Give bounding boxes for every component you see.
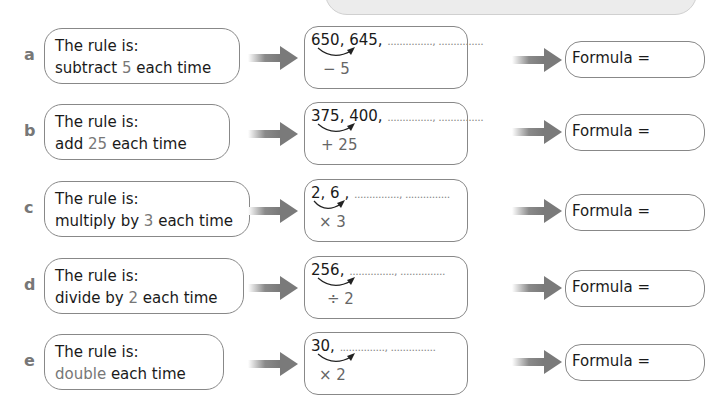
rule-prefix: The rule is: (55, 188, 239, 210)
arrow-right-icon (248, 350, 300, 378)
jump-arrow-icon (315, 45, 365, 61)
formula-field[interactable]: Formula = (565, 270, 705, 307)
header-panel (325, 0, 697, 15)
answer-blanks[interactable]: ..............., ............... (354, 188, 450, 201)
rule-text: subtract 5 each time (55, 57, 229, 79)
jump-arrow-icon (315, 121, 365, 137)
question-b: b The rule is: add 25 each time 375, 400… (0, 98, 715, 170)
operation-label: × 2 (319, 366, 346, 384)
question-c: c The rule is: multiply by 3 each time 2… (0, 175, 715, 247)
sequence-box: 2, 6 , ..............., ............... … (304, 179, 468, 242)
operation-label: + 25 (321, 136, 357, 154)
sequence-box: 256, ..............., ............... ÷ … (304, 256, 468, 319)
rule-text: add 25 each time (55, 133, 219, 155)
rule-prefix: The rule is: (55, 265, 233, 287)
question-d: d The rule is: divide by 2 each time 256… (0, 252, 715, 324)
arrow-right-icon (512, 348, 564, 376)
question-letter: e (24, 351, 35, 370)
sequence-box: 30, ..............., ............... × 2 (304, 332, 468, 395)
jump-arrow-icon (311, 198, 361, 214)
jump-arrow-icon (315, 275, 365, 291)
answer-blanks[interactable]: ..............., ............... (387, 111, 483, 124)
question-letter: b (24, 121, 35, 140)
arrow-right-icon (248, 120, 300, 148)
arrow-right-icon (512, 118, 564, 146)
rule-cloud: The rule is: multiply by 3 each time (44, 181, 250, 237)
arrow-right-icon (248, 44, 300, 72)
question-letter: c (24, 198, 33, 217)
question-a: a The rule is: subtract 5 each time 650,… (0, 22, 715, 94)
operation-label: − 5 (323, 60, 350, 78)
arrow-right-icon (512, 197, 564, 225)
rule-cloud: The rule is: double each time (44, 334, 224, 390)
formula-field[interactable]: Formula = (565, 41, 705, 78)
arrow-right-icon (512, 274, 564, 302)
operation-label: ÷ 2 (327, 290, 354, 308)
arrow-right-icon (248, 274, 300, 302)
formula-field[interactable]: Formula = (565, 114, 705, 151)
rule-prefix: The rule is: (55, 111, 219, 133)
rule-cloud: The rule is: subtract 5 each time (44, 28, 240, 84)
rule-cloud: The rule is: add 25 each time (44, 104, 230, 160)
rule-prefix: The rule is: (55, 341, 213, 363)
formula-field[interactable]: Formula = (565, 194, 705, 231)
arrow-right-icon (512, 46, 564, 74)
rule-cloud: The rule is: divide by 2 each time (44, 258, 244, 314)
question-e: e The rule is: double each time 30, ....… (0, 328, 715, 400)
operation-label: × 3 (319, 213, 346, 231)
question-letter: a (24, 45, 35, 64)
rule-text: double each time (55, 363, 213, 385)
sequence-box: 650, 645, ..............., .............… (304, 26, 468, 89)
rule-text: multiply by 3 each time (55, 210, 239, 232)
rule-text: divide by 2 each time (55, 287, 233, 309)
rule-prefix: The rule is: (55, 35, 229, 57)
sequence-box: 375, 400, ..............., .............… (304, 102, 468, 165)
question-letter: d (24, 275, 35, 294)
arrow-right-icon (248, 197, 300, 225)
answer-blanks[interactable]: ..............., ............... (387, 35, 483, 48)
formula-field[interactable]: Formula = (565, 344, 705, 381)
jump-arrow-icon (315, 351, 365, 367)
